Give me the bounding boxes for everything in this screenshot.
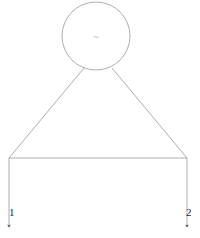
tilde-mark-icon: ~: [94, 32, 99, 42]
left-diagonal-line: [9, 68, 84, 158]
node-label-2: 2: [186, 207, 192, 218]
node-label-1: 1: [9, 207, 15, 218]
diagram-canvas: ~ 1 2: [0, 0, 200, 238]
diagram-vector-layer: ~: [0, 0, 200, 238]
right-diagonal-line: [112, 68, 187, 158]
